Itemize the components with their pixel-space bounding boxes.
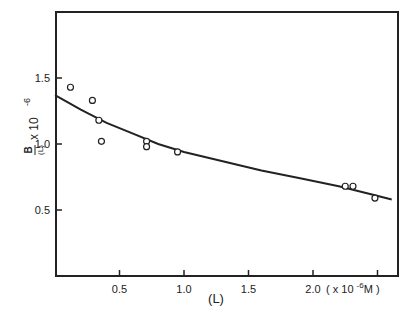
x-axis-unit: ( x 10 -6M ) bbox=[326, 281, 380, 295]
svg-text:x 10: x 10 bbox=[27, 117, 41, 140]
data-points bbox=[67, 84, 377, 201]
svg-text:1.0: 1.0 bbox=[176, 283, 191, 295]
svg-text:0.5: 0.5 bbox=[35, 204, 50, 216]
y-axis-label: B (L) x 10 -6 bbox=[22, 98, 45, 155]
svg-text:1.5: 1.5 bbox=[241, 283, 256, 295]
svg-text:B: B bbox=[23, 146, 34, 153]
data-point bbox=[372, 195, 378, 201]
svg-text:(L): (L) bbox=[36, 145, 45, 155]
data-point bbox=[96, 117, 102, 123]
data-point bbox=[342, 183, 348, 189]
svg-text:0.5: 0.5 bbox=[112, 283, 127, 295]
chart: 0.51.01.52.0 0.51.01.5 (L) ( x 10 -6M ) … bbox=[0, 0, 410, 321]
svg-text:-6: -6 bbox=[22, 98, 32, 106]
svg-text:2.0: 2.0 bbox=[305, 283, 320, 295]
data-point bbox=[350, 183, 356, 189]
data-point bbox=[175, 149, 181, 155]
x-axis-label: (L) bbox=[208, 291, 224, 306]
fitted-curve bbox=[55, 95, 392, 199]
y-axis-ticks: 0.51.01.5 bbox=[35, 72, 62, 216]
data-point bbox=[89, 97, 95, 103]
svg-text:1.5: 1.5 bbox=[35, 72, 50, 84]
data-point bbox=[144, 144, 150, 150]
data-point bbox=[67, 84, 73, 90]
plot-frame bbox=[56, 12, 398, 276]
data-point bbox=[98, 138, 104, 144]
